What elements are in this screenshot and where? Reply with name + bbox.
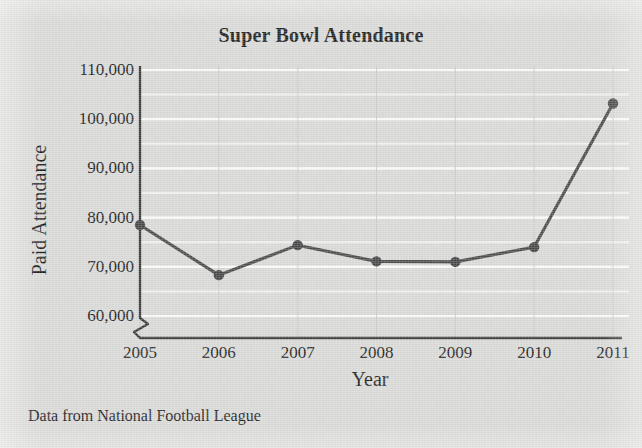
y-axis-title: Paid Attendance <box>28 120 51 300</box>
gridlines-minor <box>140 70 629 316</box>
x-axis-tick-label: 2005 <box>105 343 175 363</box>
y-axis-tick-label: 100,000 <box>52 109 134 129</box>
data-point-marker <box>371 256 381 266</box>
y-axis-tick-label: 110,000 <box>52 60 134 80</box>
source-note: Data from National Football League <box>28 407 261 425</box>
data-point-marker <box>214 270 224 280</box>
gridlines-vertical <box>140 66 613 338</box>
x-axis-tick-label: 2006 <box>184 343 254 363</box>
x-axis-tick-label: 2009 <box>420 343 490 363</box>
x-axis-tick-label: 2010 <box>499 343 569 363</box>
x-axis-title: Year <box>130 368 610 391</box>
x-axis-tick-label: 2008 <box>342 343 412 363</box>
x-axis-tick-label: 2011 <box>578 343 642 363</box>
y-axis-tick-labels: 110,000100,00090,00080,00070,00060,000 <box>52 0 134 448</box>
data-point-marker <box>292 240 302 250</box>
y-axis-tick-label: 90,000 <box>52 158 134 178</box>
x-axis-tick-labels: 2005200620072008200920102011 <box>0 343 642 369</box>
data-point-marker <box>529 242 539 252</box>
x-axis-tick-label: 2007 <box>263 343 333 363</box>
y-axis-tick-label: 70,000 <box>52 257 134 277</box>
y-axis-tick-label: 60,000 <box>52 306 134 326</box>
data-point-marker <box>450 257 460 267</box>
data-point-marker <box>608 98 618 108</box>
axis-lines <box>134 66 622 338</box>
y-axis-tick-label: 80,000 <box>52 208 134 228</box>
data-point-marker <box>135 220 145 230</box>
